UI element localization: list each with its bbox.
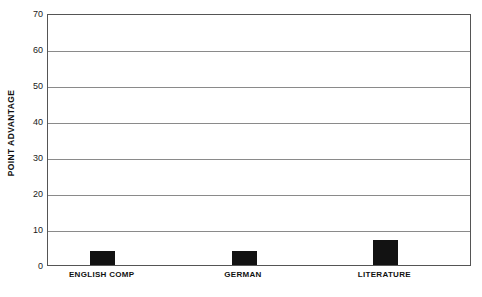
bar — [90, 251, 115, 265]
gridline — [48, 159, 470, 160]
y-axis-tick-label: 70 — [33, 9, 43, 19]
bar-chart-figure: POINT ADVANTAGE 010203040506070 ENGLISH … — [0, 0, 482, 297]
y-axis-tick-label: 10 — [33, 225, 43, 235]
gridline — [48, 87, 470, 88]
y-axis-tick-label: 20 — [33, 189, 43, 199]
bar — [373, 240, 398, 265]
y-axis-tick-labels: 010203040506070 — [22, 0, 46, 297]
y-axis-tick-label: 0 — [38, 261, 43, 271]
gridline — [48, 51, 470, 52]
y-axis-title: POINT ADVANTAGE — [0, 0, 22, 266]
x-axis-tick-label: GERMAN — [224, 270, 261, 279]
y-axis-tick-label: 60 — [33, 45, 43, 55]
plot-area — [47, 14, 471, 266]
y-axis-tick-label: 50 — [33, 81, 43, 91]
gridline — [48, 123, 470, 124]
x-axis-tick-label: LITERATURE — [358, 270, 411, 279]
bar — [232, 251, 257, 265]
y-axis-title-label: POINT ADVANTAGE — [6, 90, 16, 177]
y-axis-tick-label: 40 — [33, 117, 43, 127]
gridline — [48, 195, 470, 196]
x-axis-tick-labels: ENGLISH COMPGERMANLITERATURE — [47, 270, 471, 286]
gridline — [48, 231, 470, 232]
x-axis-tick-label: ENGLISH COMP — [69, 270, 134, 279]
y-axis-tick-label: 30 — [33, 153, 43, 163]
